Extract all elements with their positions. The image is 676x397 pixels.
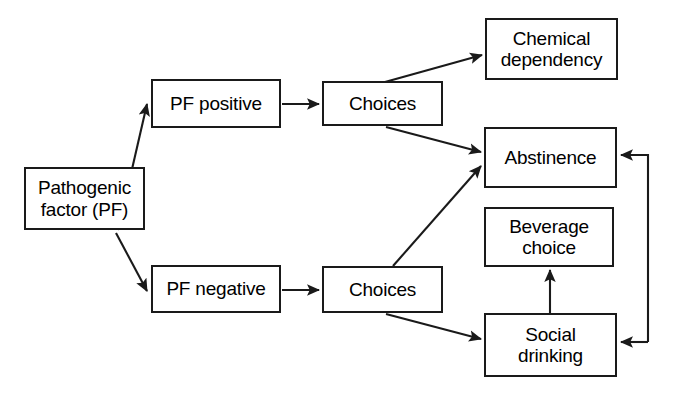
node-beverage-choice-label: Beverage choice — [505, 216, 593, 259]
node-choices-upper-label: Choices — [345, 93, 420, 114]
edge-choices-upper-to-abstinence — [386, 127, 481, 152]
edge-feedback-to-abstinence — [621, 155, 648, 342]
edge-choices-lower-to-abstinence — [393, 166, 481, 266]
node-pf-negative-label: PF negative — [162, 278, 269, 299]
edge-choices-lower-to-social-drinking — [386, 314, 481, 339]
node-choices-lower[interactable]: Choices — [322, 266, 443, 313]
node-abstinence[interactable]: Abstinence — [484, 127, 617, 188]
node-choices-upper[interactable]: Choices — [322, 81, 443, 126]
node-chemical-dependency-label: Chemical dependency — [497, 28, 607, 71]
node-chemical-dependency[interactable]: Chemical dependency — [485, 18, 618, 80]
edge-pf-to-pf-negative — [116, 233, 147, 291]
node-social-drinking-label: Social drinking — [514, 324, 587, 367]
node-pf-positive-label: PF positive — [166, 93, 266, 114]
edge-choices-upper-to-chemical-dependency — [385, 55, 482, 82]
node-choices-lower-label: Choices — [345, 279, 420, 300]
node-pf-positive[interactable]: PF positive — [151, 79, 281, 128]
node-beverage-choice[interactable]: Beverage choice — [484, 207, 614, 267]
flowchart-canvas: Pathogenic factor (PF) PF positive PF ne… — [0, 0, 676, 397]
node-social-drinking[interactable]: Social drinking — [484, 313, 617, 377]
node-pf-negative[interactable]: PF negative — [151, 265, 281, 313]
node-abstinence-label: Abstinence — [500, 147, 600, 168]
node-pathogenic-factor[interactable]: Pathogenic factor (PF) — [24, 167, 145, 230]
node-pathogenic-factor-label: Pathogenic factor (PF) — [34, 177, 135, 220]
